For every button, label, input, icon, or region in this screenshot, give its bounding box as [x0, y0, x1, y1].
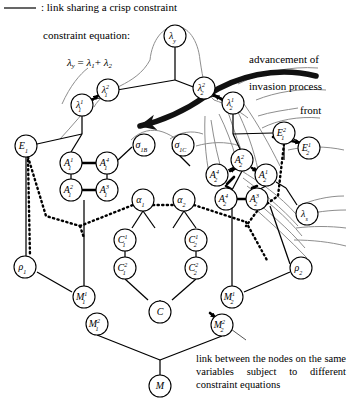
- legend-crisp-link-text: : link sharing a crisp constraint: [41, 1, 177, 14]
- node-alpha_2[interactable]: α2: [173, 189, 195, 211]
- advancement-line-2: invasion process: [249, 80, 322, 92]
- node-A_4_1[interactable]: A41: [96, 152, 118, 174]
- node-A_4_2_left[interactable]: A42: [206, 164, 228, 186]
- node-M_2_1[interactable]: M21: [86, 313, 108, 335]
- diagram-canvas: λyλ21λ11λ22λ12E1E21E12σ1Bσ1CA11A41A21A31…: [0, 0, 350, 406]
- node-A_3_2[interactable]: A32: [246, 188, 268, 210]
- node-A_1_2[interactable]: A12: [255, 164, 277, 186]
- node-label: M: [155, 380, 165, 391]
- front-pointer-line: [258, 108, 298, 116]
- node-lambda_s[interactable]: λs: [296, 203, 318, 225]
- node-C_2_2[interactable]: C22: [185, 257, 207, 279]
- node-A_2_1[interactable]: A21: [60, 179, 82, 201]
- advancement-label: advancement of invasion process: [238, 40, 322, 107]
- node-A_1_1[interactable]: A11: [60, 152, 82, 174]
- node-sigma_1c[interactable]: σ1C: [172, 134, 194, 156]
- front-label: front: [300, 104, 321, 117]
- node-circle: [14, 256, 36, 278]
- node-E_1_2[interactable]: E12: [298, 137, 320, 159]
- node-A_3_1[interactable]: A31: [96, 179, 118, 201]
- node-E_2_1[interactable]: E21: [273, 122, 295, 144]
- node-C_2_1[interactable]: C21: [114, 257, 136, 279]
- node-lambda_2_2[interactable]: λ22: [193, 77, 215, 99]
- node-C_1_2[interactable]: C12: [185, 229, 207, 251]
- node-lambda_1_1[interactable]: λ11: [71, 94, 93, 116]
- node-rho_1[interactable]: ρ1: [14, 256, 36, 278]
- bottom-note: link between the nodes on the same varia…: [196, 352, 346, 391]
- node-C[interactable]: C: [149, 301, 171, 323]
- advancement-line-1: advancement of: [249, 53, 319, 65]
- node-rho_2[interactable]: ρ2: [290, 257, 312, 279]
- node-circle: [290, 257, 312, 279]
- node-E_1[interactable]: E1: [15, 135, 37, 157]
- constraint-equation: λy = λ1+ λ2: [56, 43, 112, 82]
- node-sigma_1b[interactable]: σ1B: [133, 134, 155, 156]
- node-A_2_2[interactable]: A22: [231, 149, 253, 171]
- node-M_1_1[interactable]: M11: [73, 286, 95, 308]
- node-M_2_2[interactable]: M22: [211, 314, 233, 336]
- node-M[interactable]: M: [149, 375, 171, 397]
- node-circle: [296, 203, 318, 225]
- node-A_4_2[interactable]: A42: [215, 188, 237, 210]
- node-lambda_y[interactable]: λy: [164, 25, 186, 47]
- node-circle: [164, 25, 186, 47]
- node-C_1_1[interactable]: C11: [114, 229, 136, 251]
- node-M_1_2[interactable]: M12: [221, 286, 243, 308]
- node-label: C: [157, 306, 164, 317]
- constraint-equation-title: constraint equation:: [43, 29, 130, 42]
- node-alpha_1[interactable]: α1: [132, 189, 154, 211]
